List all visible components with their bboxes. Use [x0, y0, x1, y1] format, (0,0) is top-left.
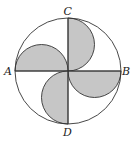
- semicircle-lower-od: [41, 71, 68, 124]
- semicircle-left-ao: [15, 45, 68, 71]
- label-d: D: [62, 126, 72, 139]
- semicircle-upper-oc: [68, 18, 95, 71]
- label-b: B: [121, 65, 130, 78]
- pinwheel-circle-diagram: C A B D: [0, 0, 133, 142]
- label-c: C: [64, 5, 73, 18]
- label-a: A: [3, 65, 12, 78]
- semicircle-right-ob: [68, 71, 121, 98]
